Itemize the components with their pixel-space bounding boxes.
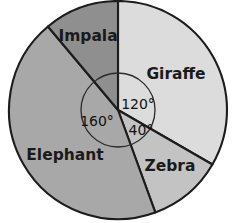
pie-wedge-group <box>9 1 227 219</box>
slice-label-impala: Impala <box>58 27 117 45</box>
angle-label-zebra: 40° <box>129 122 154 138</box>
pie-chart-svg: 120°40°160° GiraffeZebraElephantImpala <box>0 0 236 223</box>
slice-label-giraffe: Giraffe <box>146 65 205 83</box>
angle-label-elephant: 160° <box>80 113 114 129</box>
slice-label-elephant: Elephant <box>26 146 104 164</box>
angle-label-giraffe: 120° <box>121 96 155 112</box>
pie-chart-figure: 120°40°160° GiraffeZebraElephantImpala <box>0 0 236 223</box>
slice-label-zebra: Zebra <box>145 157 196 175</box>
